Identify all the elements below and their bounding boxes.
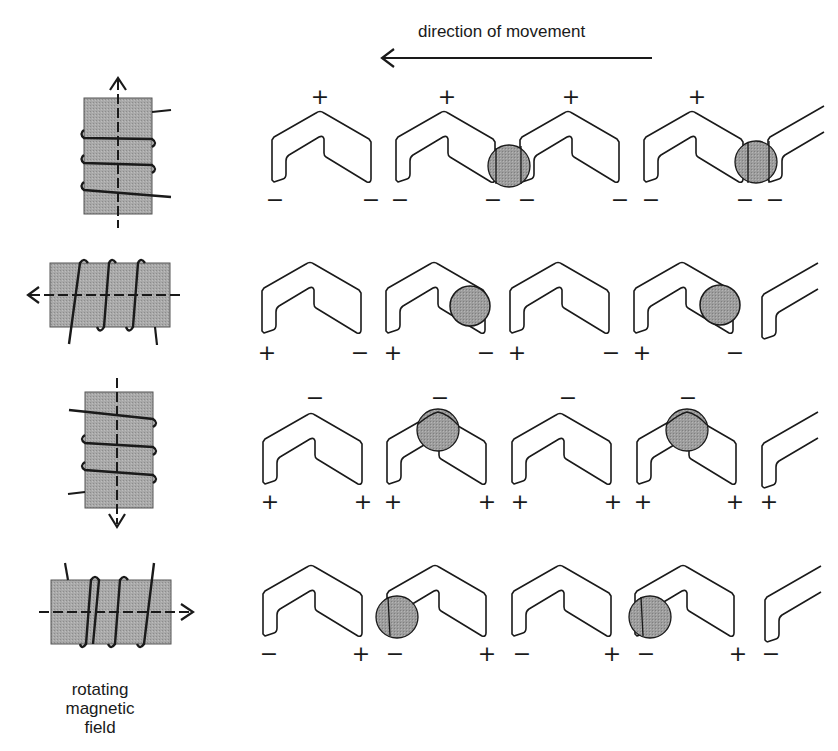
polarity-label: − (766, 189, 784, 211)
magnetic-bubble-icon (488, 145, 530, 187)
polarity-label: − (611, 189, 629, 211)
polarity-label: − (484, 189, 502, 211)
polarity-label: + (604, 491, 622, 513)
polarity-label: + (633, 342, 651, 364)
row-2-chevrons (262, 263, 818, 340)
magnetic-bubble-icon (666, 409, 708, 451)
row-4-chevrons (263, 566, 821, 643)
coil-right-icon (39, 563, 193, 647)
polarity-label: + (562, 86, 580, 108)
magnetic-bubble-icon (450, 286, 490, 326)
magnetic-bubble-icon (629, 596, 671, 638)
polarity-label: − (559, 387, 577, 409)
polarity-label: + (352, 643, 370, 665)
caption-line-1: rotating (40, 680, 160, 699)
polarity-label: + (603, 643, 621, 665)
polarity-label: + (311, 86, 329, 108)
row-1-chevrons (272, 106, 824, 187)
coil-up-icon (82, 78, 172, 228)
polarity-label: + (384, 491, 402, 513)
magnetic-bubble-icon (376, 596, 418, 638)
polarity-label: − (306, 387, 324, 409)
polarity-label: + (354, 491, 372, 513)
polarity-label: + (726, 491, 744, 513)
magnetic-bubble-icon (700, 285, 740, 325)
polarity-label: − (431, 387, 449, 409)
polarity-label: − (391, 189, 409, 211)
polarity-label: − (518, 189, 536, 211)
diagram-canvas (0, 0, 838, 751)
polarity-label: + (729, 643, 747, 665)
polarity-label: − (762, 643, 780, 665)
polarity-label: + (478, 643, 496, 665)
polarity-label: − (637, 643, 655, 665)
polarity-label: + (511, 491, 529, 513)
magnetic-bubble-icon (417, 409, 459, 451)
row-3-chevrons (263, 409, 818, 488)
polarity-label: + (438, 86, 456, 108)
polarity-label: − (726, 342, 744, 364)
direction-arrow-icon (382, 49, 652, 67)
polarity-label: − (736, 189, 754, 211)
polarity-label: − (513, 643, 531, 665)
coil-down-icon (68, 378, 156, 527)
polarity-label: − (386, 643, 404, 665)
caption-line-2: magnetic (40, 699, 160, 718)
caption-line-3: field (40, 718, 160, 737)
polarity-label: + (478, 491, 496, 513)
polarity-label: − (602, 342, 620, 364)
polarity-label: + (760, 491, 778, 513)
magnetic-bubble-icon (735, 141, 777, 183)
polarity-label: + (261, 491, 279, 513)
polarity-label: − (260, 643, 278, 665)
polarity-label: − (679, 387, 697, 409)
polarity-label: − (642, 189, 660, 211)
polarity-label: − (266, 189, 284, 211)
polarity-label: + (258, 342, 276, 364)
polarity-label: − (351, 342, 369, 364)
polarity-label: + (508, 342, 526, 364)
polarity-label: + (384, 342, 402, 364)
polarity-label: − (362, 189, 380, 211)
rotating-field-caption: rotating magnetic field (40, 680, 160, 737)
polarity-label: + (688, 86, 706, 108)
polarity-label: + (634, 491, 652, 513)
polarity-label: − (477, 342, 495, 364)
coil-left-icon (28, 260, 182, 345)
